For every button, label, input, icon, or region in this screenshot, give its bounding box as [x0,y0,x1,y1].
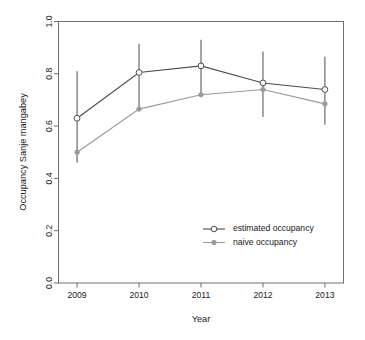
legend-marker-open-circle-icon [211,226,217,232]
x-axis-tick-labels: 20092010201120122013 [68,290,335,300]
y-tick-label: 0.0 [44,277,54,289]
data-point-estimated [198,63,204,69]
y-tick-label: 1.0 [44,15,54,27]
x-tick-label: 2010 [129,290,148,300]
chart-canvas: 0.00.20.40.60.81.0 20092010201120122013 … [0,0,365,340]
series-line-naive [77,89,325,152]
x-tick-label: 2012 [253,290,272,300]
occupancy-line-chart: 0.00.20.40.60.81.0 20092010201120122013 … [0,0,365,340]
y-axis-ticks [54,22,59,284]
x-tick-label: 2009 [68,290,87,300]
error-bars [77,40,325,163]
legend-label: estimated occupancy [233,223,314,233]
data-point-naive [137,107,141,111]
y-axis-tick-labels: 0.00.20.40.60.81.0 [44,15,54,289]
data-point-naive [75,150,79,154]
chart-legend: estimated occupancynaive occupancy [203,223,314,247]
data-point-naive [261,87,265,91]
y-tick-label: 0.4 [44,172,54,184]
x-axis-title: Year [192,314,211,324]
y-axis-title: Occupancy Sanje mangabey [18,93,28,211]
legend-label: naive occupancy [233,237,298,247]
data-point-naive [199,93,203,97]
x-tick-label: 2011 [192,290,211,300]
x-tick-label: 2013 [315,290,334,300]
data-point-estimated [74,115,80,121]
y-tick-label: 0.2 [44,225,54,237]
y-tick-label: 0.8 [44,68,54,80]
y-tick-label: 0.6 [44,120,54,132]
data-point-estimated [136,70,142,76]
data-point-estimated [322,87,328,93]
legend-marker-filled-circle-icon [212,240,216,244]
x-axis-ticks [77,283,325,288]
data-point-estimated [260,80,266,86]
data-point-naive [323,102,327,106]
